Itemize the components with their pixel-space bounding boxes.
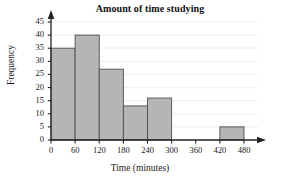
- y-tick-label: 15: [24, 96, 44, 105]
- y-axis-arrowhead: [48, 10, 55, 19]
- x-tick-label: 480: [232, 146, 256, 155]
- y-tick-label: 10: [24, 109, 44, 118]
- x-tick-label: 120: [87, 146, 111, 155]
- x-tick-label: 420: [208, 146, 232, 155]
- histogram-chart: Amount of time studying Frequency Time (…: [0, 0, 281, 184]
- bar: [51, 48, 75, 140]
- bar: [123, 106, 147, 140]
- x-tick-label: 360: [184, 146, 208, 155]
- y-tick-label: 35: [24, 43, 44, 52]
- y-tick-label: 0: [24, 135, 44, 144]
- x-tick-label: 0: [39, 146, 63, 155]
- x-tick-label: 180: [111, 146, 135, 155]
- x-tick-label: 60: [63, 146, 87, 155]
- bar: [220, 127, 244, 140]
- bar: [75, 35, 99, 140]
- y-tick-label: 40: [24, 30, 44, 39]
- bar: [148, 98, 172, 140]
- y-tick-label: 25: [24, 69, 44, 78]
- y-tick-label: 5: [24, 122, 44, 131]
- x-tick-label: 240: [136, 146, 160, 155]
- y-tick-label: 30: [24, 56, 44, 65]
- y-tick-label: 20: [24, 83, 44, 92]
- plot-area: [0, 0, 281, 184]
- x-axis-arrowhead: [257, 137, 266, 144]
- bar: [99, 69, 123, 140]
- y-tick-label: 45: [24, 17, 44, 26]
- x-tick-label: 300: [160, 146, 184, 155]
